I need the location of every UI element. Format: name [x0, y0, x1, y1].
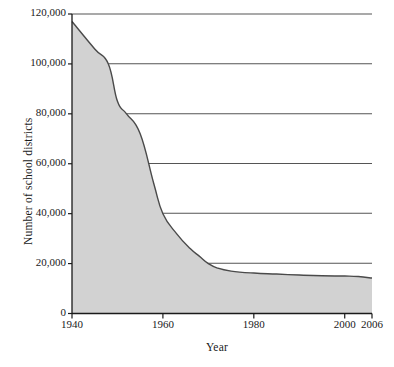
- y-tick-label-120000: 120,000: [4, 6, 66, 18]
- y-axis-title: Number of school districts: [22, 117, 34, 245]
- y-tick-label-0: 0: [4, 306, 66, 318]
- y-tick-label-20000: 20,000: [4, 256, 66, 268]
- x-tick-label-1940: 1940: [42, 318, 102, 330]
- x-tick-label-2006: 2006: [342, 318, 394, 330]
- x-tick-label-1980: 1980: [224, 318, 284, 330]
- y-tick-label-60000: 60,000: [4, 156, 66, 168]
- school-districts-area-chart: 020,00040,00060,00080,000100,000120,000 …: [0, 0, 394, 367]
- x-tick-label-1960: 1960: [133, 318, 193, 330]
- y-tick-label-80000: 80,000: [4, 106, 66, 118]
- x-axis-title: Year: [0, 341, 394, 353]
- y-tick-label-40000: 40,000: [4, 206, 66, 218]
- y-tick-label-100000: 100,000: [4, 56, 66, 68]
